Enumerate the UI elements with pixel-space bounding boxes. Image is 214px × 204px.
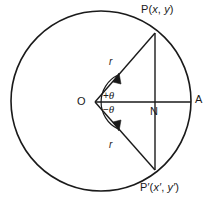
figure-container: P(x, y) P′(x′, y′) O N A r r +θ −θ bbox=[0, 0, 214, 204]
circle-angle-diagram bbox=[0, 0, 214, 204]
label-point-p-prime: P′(x′, y′) bbox=[140, 182, 179, 193]
label-angle-positive-theta: +θ bbox=[103, 90, 114, 101]
label-point-p-prefix: P( bbox=[141, 3, 152, 15]
label-point-p: P(x, y) bbox=[141, 4, 174, 15]
label-angle-negative-theta: −θ bbox=[103, 104, 114, 115]
label-point-n: N bbox=[150, 106, 158, 117]
theta-symbol-positive: θ bbox=[109, 89, 114, 101]
label-point-a: A bbox=[195, 94, 202, 105]
label-radius-lower: r bbox=[109, 140, 112, 150]
angle-arc-arrowhead-upper bbox=[113, 73, 121, 84]
label-radius-upper: r bbox=[109, 57, 112, 67]
label-point-p-suffix: ) bbox=[170, 3, 174, 15]
label-point-p-prime-x: x′ bbox=[153, 181, 161, 193]
label-point-p-prime-prefix: P′( bbox=[140, 181, 153, 193]
label-origin-o: O bbox=[77, 96, 86, 107]
theta-symbol-negative: θ bbox=[109, 103, 114, 115]
label-point-p-prime-suffix: ) bbox=[175, 181, 179, 193]
